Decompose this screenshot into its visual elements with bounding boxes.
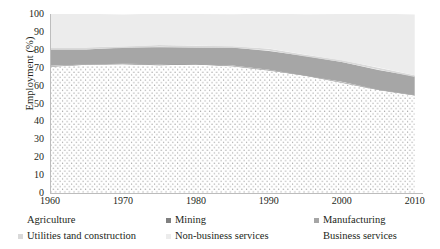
x-axis-line (50, 193, 423, 194)
legend-row: AgricultureMiningManufacturing (18, 212, 428, 228)
legend-swatch-icon (18, 218, 23, 223)
legend-swatch-icon (166, 234, 171, 239)
y-tick-label: 60 (34, 81, 44, 91)
legend-label: Non-business services (175, 230, 269, 242)
y-tick-label: 70 (34, 63, 44, 73)
legend-swatch-icon (166, 218, 171, 223)
x-tick-label: 2000 (332, 195, 352, 207)
x-axis-tick-labels: 196019701980199020002010 (0, 195, 440, 211)
legend-item[interactable]: Mining (166, 212, 314, 228)
x-tick-label: 1980 (186, 195, 206, 207)
plot-area (50, 14, 422, 193)
x-tick-label: 1970 (113, 195, 133, 207)
legend-swatch-icon (314, 218, 319, 223)
y-tick-label: 100 (29, 9, 44, 19)
y-tick-label: 40 (34, 116, 44, 126)
legend-item[interactable]: Business services (314, 228, 428, 244)
y-tick-label: 10 (34, 170, 44, 180)
y-tick-label: 90 (34, 27, 44, 37)
y-tick-label: 30 (34, 134, 44, 144)
legend-item[interactable]: Agriculture (18, 212, 166, 228)
legend-item[interactable]: Non-business services (166, 228, 314, 244)
legend-swatch-icon (314, 234, 319, 239)
x-tick-label: 2010 (405, 195, 425, 207)
legend-swatch-icon (18, 234, 23, 239)
y-tick-label: 50 (34, 99, 44, 109)
legend-label: Utilities tand construction (27, 230, 136, 242)
legend-label: Mining (175, 214, 206, 226)
legend-label: Manufacturing (323, 214, 385, 226)
stacked-area-chart: Employment (%) 0102030405060708090100 19… (0, 0, 440, 249)
legend-item[interactable]: Manufacturing (314, 212, 428, 228)
chart-legend: AgricultureMiningManufacturing Utilities… (18, 212, 428, 246)
area-series-group (50, 14, 422, 193)
legend-item[interactable]: Utilities tand construction (18, 228, 166, 244)
legend-label: Business services (323, 230, 397, 242)
legend-label: Agriculture (27, 214, 75, 226)
x-tick-label: 1990 (259, 195, 279, 207)
y-tick-label: 80 (34, 45, 44, 55)
y-axis-line (50, 14, 51, 194)
y-tick-label: 20 (34, 152, 44, 162)
legend-row: Utilities tand constructionNon-business … (18, 228, 428, 244)
x-tick-label: 1960 (40, 195, 60, 207)
